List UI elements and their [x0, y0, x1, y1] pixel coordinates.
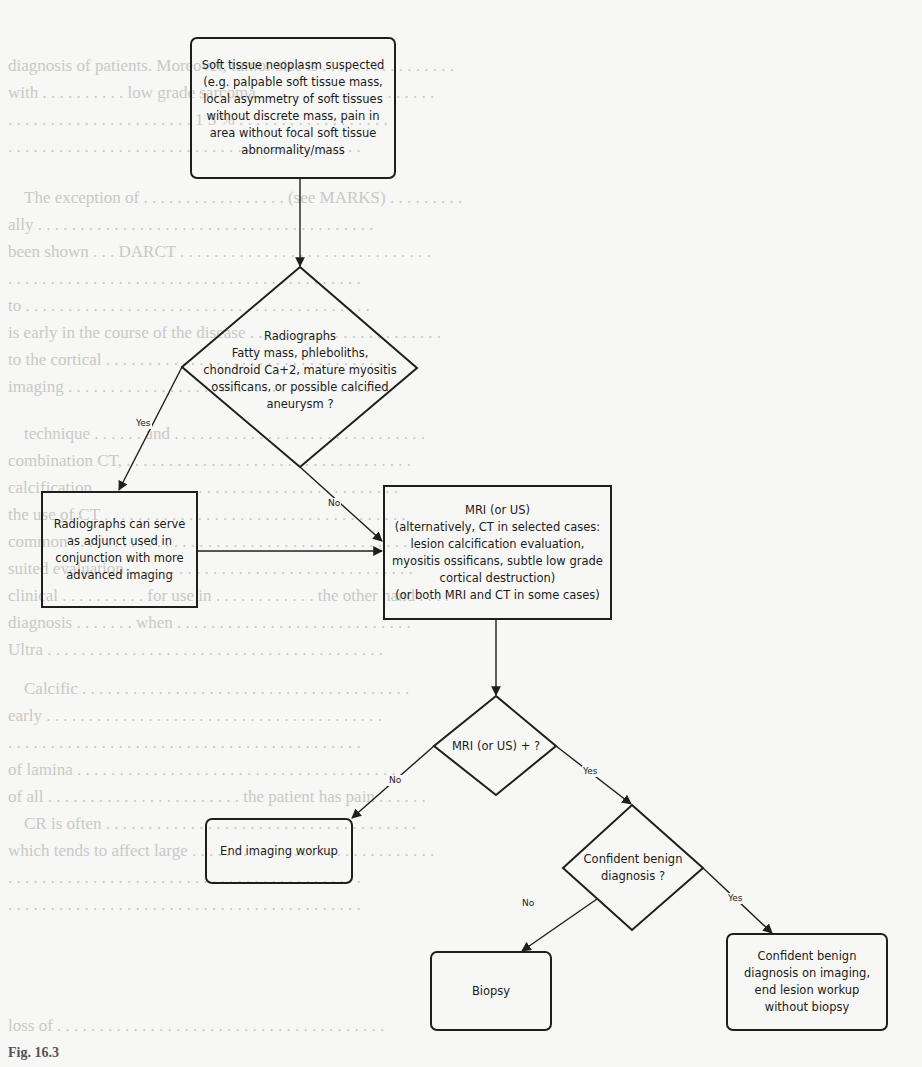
node-text: End imaging workup	[220, 843, 338, 860]
edge-label-no: No	[521, 898, 535, 909]
diamond-text-benign-decision: Confident benign diagnosis ?	[568, 850, 698, 886]
node-text: Confident benign diagnosis on imaging, e…	[744, 948, 870, 1016]
node-text: Biopsy	[472, 983, 510, 1000]
edge-label-yes: Yes	[582, 766, 599, 777]
node-biopsy: Biopsy	[430, 951, 552, 1031]
node-end-imaging-workup: End imaging workup	[205, 818, 353, 884]
figure-caption: Fig. 16.3	[8, 1045, 59, 1061]
node-text: MRI (or US) (alternatively, CT in select…	[392, 502, 603, 604]
node-radiographs-adjunct: Radiographs can serve as adjunct used in…	[41, 491, 198, 608]
diamond-text-mri-decision: MRI (or US) + ?	[440, 736, 552, 756]
diamond-text-radiograph-decision: Radiographs Fatty mass, phleboliths, cho…	[200, 320, 400, 420]
node-text: Soft tissue neoplasm suspected (e.g. pal…	[202, 57, 385, 159]
edge-label-no: No	[388, 775, 402, 786]
edge-label-yes: Yes	[727, 893, 744, 904]
node-text: Radiographs can serve as adjunct used in…	[54, 516, 186, 584]
edge-label-yes: Yes	[135, 418, 152, 429]
edge-label-no: No	[327, 498, 341, 509]
node-mri-or-us: MRI (or US) (alternatively, CT in select…	[383, 485, 612, 620]
node-confident-benign-end: Confident benign diagnosis on imaging, e…	[726, 933, 888, 1031]
node-soft-tissue-neoplasm-suspected: Soft tissue neoplasm suspected (e.g. pal…	[190, 37, 396, 179]
